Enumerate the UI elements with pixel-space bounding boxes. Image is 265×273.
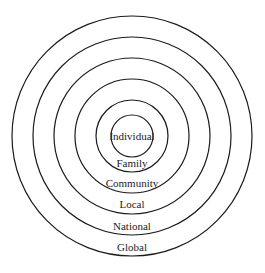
label-individual: Individual (109, 130, 154, 142)
label-community: Community (106, 177, 159, 189)
concentric-circles-diagram: Individual Family Community Local Nation… (0, 0, 265, 273)
label-local: Local (119, 198, 144, 210)
label-family: Family (116, 157, 148, 169)
label-global: Global (117, 241, 147, 253)
label-national: National (113, 220, 151, 232)
